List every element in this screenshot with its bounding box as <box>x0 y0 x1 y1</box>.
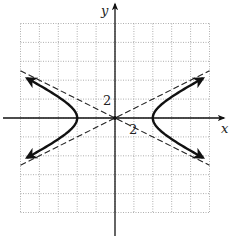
x-axis-label: x <box>221 121 229 136</box>
hyperbola-graph: y x 2 2 <box>0 0 229 242</box>
center-point <box>113 116 117 120</box>
x-tick-label: 2 <box>129 122 137 137</box>
y-tick-label: 2 <box>103 93 111 108</box>
y-axis-label: y <box>100 3 109 18</box>
